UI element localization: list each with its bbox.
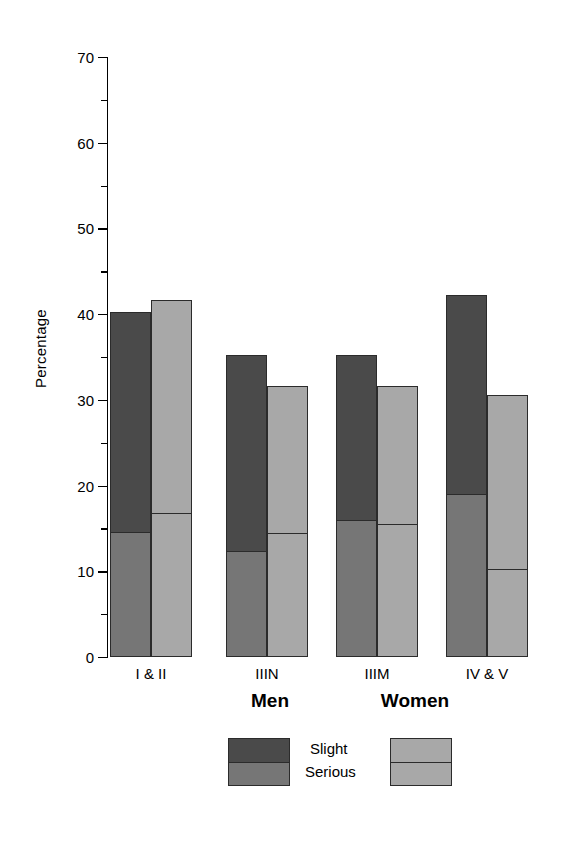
chart-legend: Men Women Slight Serious <box>0 690 580 810</box>
bar-group <box>226 57 308 657</box>
bar-segment-serious <box>488 569 527 656</box>
x-axis-label: IV & V <box>422 665 552 682</box>
bar-men <box>446 295 487 657</box>
bar-segment-slight <box>378 387 417 524</box>
bar-segment-serious <box>111 532 150 656</box>
y-tick-major <box>98 486 108 487</box>
bar-group <box>336 57 418 657</box>
y-tick-major <box>98 228 108 229</box>
bar-segment-serious <box>337 520 376 656</box>
y-tick-label: 50 <box>54 220 94 237</box>
bar-segment-serious <box>268 533 307 656</box>
legend-swatch-women-serious <box>391 762 451 785</box>
legend-title-men: Men <box>210 690 330 712</box>
x-axis-label: I & II <box>86 665 216 682</box>
bar-women <box>487 395 528 657</box>
legend-swatch-men-slight <box>229 739 289 762</box>
bar-segment-slight <box>152 301 191 513</box>
y-tick-label: 20 <box>54 477 94 494</box>
legend-swatch-men <box>228 738 290 786</box>
legend-title-women: Women <box>355 690 475 712</box>
bar-group <box>446 57 528 657</box>
bar-segment-slight <box>447 296 486 494</box>
plot-area: 706050403020100 I & IIIIINIIIMIV & V <box>108 57 528 657</box>
bar-segment-slight <box>227 356 266 551</box>
bar-segment-slight <box>268 387 307 532</box>
legend-swatch-women <box>390 738 452 786</box>
chart-figure: Percentage 706050403020100 I & IIIIINIII… <box>0 0 580 845</box>
y-tick-label: 40 <box>54 306 94 323</box>
y-tick-label: 30 <box>54 391 94 408</box>
legend-swatch-women-slight <box>391 739 451 762</box>
legend-key-slight: Slight <box>310 740 348 757</box>
y-tick-major <box>98 571 108 572</box>
bar-segment-slight <box>111 313 150 532</box>
legend-swatch-men-serious <box>229 762 289 785</box>
y-tick-minor <box>101 271 108 272</box>
bar-segment-slight <box>337 356 376 519</box>
bar-women <box>267 386 308 657</box>
y-tick-major <box>98 143 108 144</box>
y-tick-minor <box>101 614 108 615</box>
y-tick-label: 70 <box>54 49 94 66</box>
bar-men <box>110 312 151 657</box>
y-tick-minor <box>101 528 108 529</box>
bar-women <box>151 300 192 657</box>
bar-segment-serious <box>378 524 417 656</box>
y-tick-major <box>98 657 108 658</box>
y-tick-minor <box>101 100 108 101</box>
y-tick-label: 10 <box>54 563 94 580</box>
y-tick-major <box>98 400 108 401</box>
y-tick-label: 60 <box>54 134 94 151</box>
y-tick-label: 0 <box>54 649 94 666</box>
y-axis-title: Percentage <box>32 279 49 419</box>
bar-men <box>336 355 377 657</box>
y-tick-minor <box>101 357 108 358</box>
y-tick-minor <box>101 186 108 187</box>
y-tick-major <box>98 57 108 58</box>
bar-group <box>110 57 192 657</box>
bar-segment-slight <box>488 396 527 570</box>
y-tick-minor <box>101 443 108 444</box>
bar-women <box>377 386 418 657</box>
bar-segment-serious <box>227 551 266 656</box>
bar-segment-serious <box>152 513 191 656</box>
y-tick-major <box>98 314 108 315</box>
bar-segment-serious <box>447 494 486 656</box>
legend-key-serious: Serious <box>305 763 356 780</box>
bar-men <box>226 355 267 657</box>
